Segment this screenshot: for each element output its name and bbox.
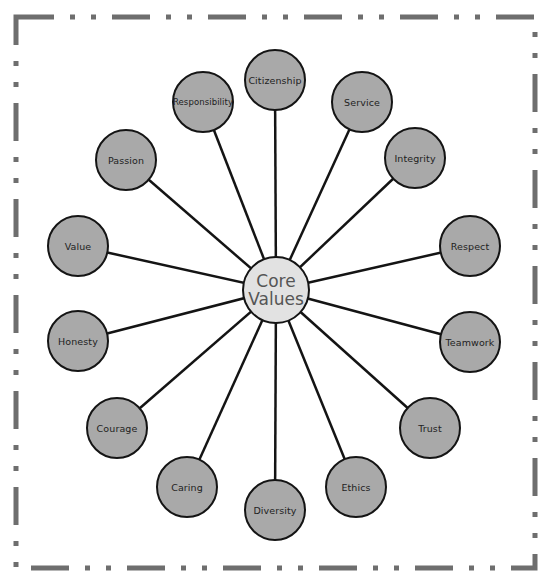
- node-label: Courage: [97, 423, 138, 434]
- node-honesty: Honesty: [47, 310, 109, 372]
- node-label: Responsibility: [173, 97, 233, 107]
- node-service: Service: [331, 71, 393, 133]
- hub-label-line2: Values: [248, 290, 304, 308]
- node-respect: Respect: [439, 215, 501, 277]
- node-citizenship: Citizenship: [244, 49, 306, 111]
- node-label: Value: [65, 241, 92, 252]
- node-label: Citizenship: [248, 75, 301, 86]
- node-label: Honesty: [58, 336, 98, 347]
- node-label: Service: [344, 97, 380, 108]
- node-label: Ethics: [341, 482, 370, 493]
- node-label: Caring: [171, 482, 203, 493]
- core-values-diagram: Citizenship Service Integrity Respect Te…: [0, 0, 550, 579]
- node-integrity: Integrity: [384, 127, 446, 189]
- node-label: Teamwork: [446, 337, 495, 348]
- node-passion: Passion: [95, 129, 157, 191]
- node-label: Respect: [451, 241, 490, 252]
- node-trust: Trust: [399, 397, 461, 459]
- center-hub-core-values: Core Values: [242, 256, 310, 324]
- node-label: Diversity: [253, 505, 296, 516]
- node-ethics: Ethics: [325, 456, 387, 518]
- node-responsibility: Responsibility: [172, 71, 234, 133]
- node-value: Value: [47, 215, 109, 277]
- node-label: Passion: [108, 155, 144, 166]
- node-label: Integrity: [394, 153, 435, 164]
- node-caring: Caring: [156, 456, 218, 518]
- node-diversity: Diversity: [244, 479, 306, 541]
- node-teamwork: Teamwork: [439, 311, 501, 373]
- hub-label-line1: Core: [256, 272, 295, 290]
- node-courage: Courage: [86, 397, 148, 459]
- node-label: Trust: [418, 423, 442, 434]
